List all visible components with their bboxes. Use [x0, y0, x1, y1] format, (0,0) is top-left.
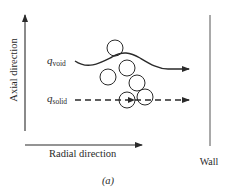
particle-circle: [100, 69, 116, 85]
q-solid-label: qsolid: [47, 92, 67, 106]
particles: [100, 40, 153, 108]
q-void-subscript: void: [53, 59, 67, 68]
figure-caption: (a): [102, 175, 115, 187]
wall: Wall: [200, 15, 219, 167]
axial-axis: Axial direction: [8, 15, 25, 131]
wall-label: Wall: [200, 156, 219, 167]
heat-transfer-diagram: Axial direction Radial direction qvoid q…: [0, 0, 232, 195]
radial-direction-label: Radial direction: [49, 148, 117, 159]
axial-direction-label: Axial direction: [8, 38, 19, 102]
mid-arrowhead-icon: [128, 97, 135, 103]
void-flow-arrow: [75, 53, 189, 69]
particle-circle: [129, 75, 145, 91]
particle-circle: [119, 60, 135, 76]
radial-axis: Radial direction: [25, 145, 142, 159]
solid-flow-arrow: [75, 97, 189, 103]
particle-circle: [137, 89, 153, 105]
q-void-label: qvoid: [47, 54, 66, 68]
q-solid-subscript: solid: [53, 97, 68, 106]
